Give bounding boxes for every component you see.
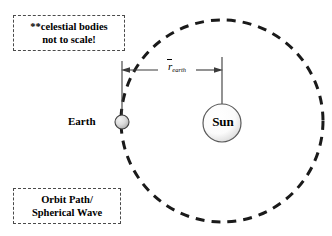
earth-circle	[115, 115, 129, 129]
radius-subscript: earth	[172, 66, 186, 73]
radius-variable: r	[168, 60, 172, 72]
radius-earth-label: rearth	[160, 60, 194, 73]
note-orbit-path-line1: Orbit Path/	[19, 193, 115, 206]
note-orbit-path: Orbit Path/ Spherical Wave	[13, 188, 121, 224]
note-orbit-path-line2: Spherical Wave	[19, 206, 115, 219]
note-not-to-scale-line2: not to scale!	[19, 33, 119, 46]
earth-label: Earth	[68, 115, 96, 127]
astronomy-diagram: **celestial bodies not to scale! Orbit P…	[0, 0, 332, 236]
note-not-to-scale-line1: **celestial bodies	[19, 20, 119, 33]
sun-label: Sun	[205, 114, 241, 130]
note-not-to-scale: **celestial bodies not to scale!	[13, 15, 125, 51]
